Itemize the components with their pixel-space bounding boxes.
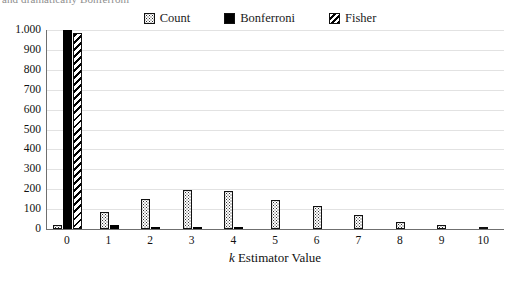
- bar-fisher-k-0: [73, 33, 82, 229]
- bar-groups: [47, 30, 504, 229]
- bar-count-k-6: [313, 206, 322, 229]
- chart-plot-wrapper: 01002003004005006007008009001.000 012345…: [0, 30, 520, 286]
- bar-group-k-0: [47, 30, 89, 229]
- x-axis-tick-4: 4: [213, 232, 255, 248]
- bar-bonferroni-k-3: [193, 227, 202, 229]
- bar-group-k-9: [421, 30, 463, 229]
- bar-count-k-4: [224, 191, 233, 229]
- bar-group-k-7: [338, 30, 380, 229]
- bar-group-k-1: [89, 30, 131, 229]
- bar-group-k-10: [462, 30, 504, 229]
- bar-group-k-5: [255, 30, 297, 229]
- legend-item-bonferroni: Bonferroni: [224, 12, 295, 25]
- plot-area: [46, 30, 504, 230]
- y-axis-tick-800: 800: [24, 64, 41, 76]
- legend-swatch-count-icon: [144, 13, 155, 24]
- x-axis-tick-1: 1: [88, 232, 130, 248]
- legend-label-bonferroni: Bonferroni: [240, 12, 295, 25]
- y-axis-tick-1000: 1.000: [15, 24, 41, 36]
- y-axis-tick-700: 700: [24, 84, 41, 96]
- cutoff-caption-strip: and dramatically Bonferroni: [0, 0, 520, 7]
- bar-count-k-0: [53, 225, 62, 229]
- y-axis-tick-900: 900: [24, 44, 41, 56]
- x-axis-tick-8: 8: [379, 232, 421, 248]
- y-axis-tick-0: 0: [35, 223, 41, 235]
- bar-group-k-3: [172, 30, 214, 229]
- x-axis-tick-0: 0: [46, 232, 88, 248]
- bar-bonferroni-k-2: [151, 227, 160, 229]
- x-axis-tick-7: 7: [337, 232, 379, 248]
- bar-group-k-2: [130, 30, 172, 229]
- y-axis-tick-200: 200: [24, 183, 41, 195]
- legend-swatch-bonferroni-icon: [224, 13, 235, 24]
- bar-bonferroni-k-0: [63, 30, 72, 229]
- bar-bonferroni-k-4: [234, 227, 243, 229]
- axis-line-zero: [47, 229, 504, 230]
- chart-legend: Count Bonferroni Fisher: [0, 9, 520, 27]
- bar-count-k-7: [354, 215, 363, 229]
- bar-group-k-8: [379, 30, 421, 229]
- bar-count-k-1: [100, 212, 109, 230]
- y-axis-tick-100: 100: [24, 203, 41, 215]
- bar-count-k-5: [271, 200, 280, 229]
- y-axis-tick-600: 600: [24, 104, 41, 116]
- y-axis-tick-400: 400: [24, 144, 41, 156]
- caption-text: and dramatically Bonferroni: [2, 0, 129, 5]
- bar-group-k-6: [296, 30, 338, 229]
- y-axis-tick-500: 500: [24, 124, 41, 136]
- x-axis-tick-labels: 012345678910: [46, 232, 504, 248]
- legend-swatch-fisher-icon: [329, 13, 340, 24]
- x-axis-tick-3: 3: [171, 232, 213, 248]
- bar-bonferroni-k-1: [110, 225, 119, 229]
- y-axis-tick-300: 300: [24, 164, 41, 176]
- bar-count-k-2: [141, 199, 150, 229]
- x-axis-tick-10: 10: [462, 232, 504, 248]
- bar-count-k-8: [396, 222, 405, 229]
- legend-item-fisher: Fisher: [329, 12, 376, 25]
- legend-label-fisher: Fisher: [345, 12, 376, 25]
- x-axis-tick-9: 9: [421, 232, 463, 248]
- y-axis-tick-labels: 01002003004005006007008009001.000: [0, 30, 44, 230]
- bar-count-k-3: [183, 190, 192, 229]
- x-axis-tick-2: 2: [129, 232, 171, 248]
- legend-item-count: Count: [144, 12, 191, 25]
- x-axis-tick-6: 6: [296, 232, 338, 248]
- bar-group-k-4: [213, 30, 255, 229]
- bar-count-k-9: [437, 225, 446, 229]
- legend-label-count: Count: [160, 12, 191, 25]
- x-axis-title: k Estimator Value: [46, 250, 504, 266]
- bar-count-k-10: [479, 227, 488, 229]
- x-axis-title-text: Estimator Value: [235, 250, 321, 265]
- x-axis-tick-5: 5: [254, 232, 296, 248]
